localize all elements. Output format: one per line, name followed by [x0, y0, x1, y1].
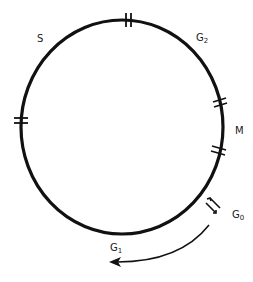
cycle-circle — [21, 20, 223, 234]
g0-to-g1-arrow — [117, 225, 209, 262]
phase-label-g2: G2 — [196, 33, 208, 45]
boundary-mark-m-g1 — [211, 146, 226, 155]
g0-reversible-arrows — [206, 198, 220, 213]
phase-label-m: M — [235, 126, 244, 136]
phase-label-s: S — [37, 34, 43, 44]
phase-label-g0: G0 — [232, 210, 244, 222]
phase-label-g1: G1 — [110, 243, 122, 255]
